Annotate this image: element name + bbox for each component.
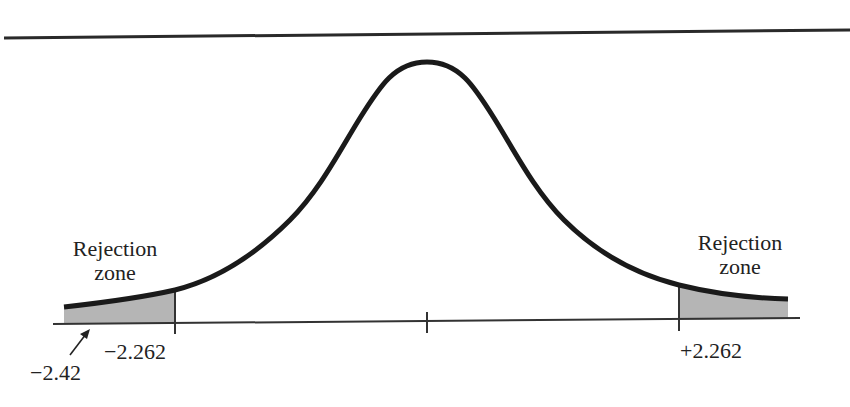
critical-value-right: +2.262 xyxy=(680,339,742,363)
right-zone-line2: zone xyxy=(683,255,797,279)
distribution-curve xyxy=(64,62,788,307)
left-zone-line2: zone xyxy=(58,261,172,285)
top-rule xyxy=(4,30,850,38)
right-rejection-label: Rejection zone xyxy=(683,231,797,279)
left-rejection-label: Rejection zone xyxy=(58,237,172,285)
critical-value-left: −2.262 xyxy=(104,340,166,364)
observed-value-arrow xyxy=(70,334,86,355)
observed-t-value: −2.42 xyxy=(30,361,81,385)
left-zone-line1: Rejection xyxy=(58,237,172,261)
arrowhead-icon xyxy=(80,329,90,339)
right-zone-line1: Rejection xyxy=(683,231,797,255)
